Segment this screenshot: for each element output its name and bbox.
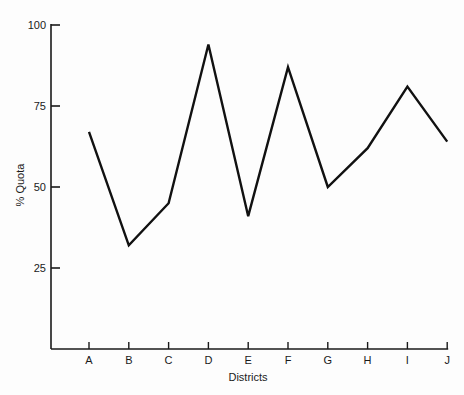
y-tick-label: 25 [34,262,46,274]
y-axis-title: % Quota [14,163,26,207]
x-axis-ticks: ABCDEFGHIJ [85,342,450,366]
x-tick-label: J [444,354,450,366]
x-tick-label: H [364,354,372,366]
y-tick-label: 100 [28,19,46,31]
data-line [89,44,447,245]
line-chart: 255075100 ABCDEFGHIJ Districts % Quota [0,0,464,395]
x-tick-label: F [285,354,292,366]
x-tick-label: C [165,354,173,366]
x-tick-label: A [85,354,93,366]
y-axis-ticks: 255075100 [28,19,60,274]
x-tick-label: D [204,354,212,366]
x-tick-label: I [406,354,409,366]
x-axis-title: Districts [228,371,268,383]
x-tick-label: G [324,354,333,366]
y-tick-label: 75 [34,100,46,112]
x-tick-label: B [125,354,132,366]
x-tick-label: E [245,354,252,366]
chart-axes [51,24,448,349]
y-tick-label: 50 [34,181,46,193]
